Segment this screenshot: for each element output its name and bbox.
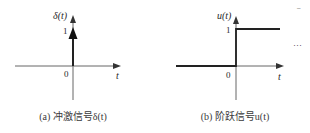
x-axis-label: t [278, 71, 281, 82]
level-label: 1 [63, 26, 68, 36]
y-axis-arrow-icon [233, 16, 239, 24]
panel-step: u(t) 1 0 t ··· (b) 阶跃信号u(t) [176, 10, 302, 123]
origin-label: 0 [64, 69, 69, 79]
signal-diagram: δ(t) 1 0 t (a) 冲激信号δ(t) u(t) 1 0 t ··· (… [0, 0, 310, 133]
continuation-ellipsis: ··· [293, 40, 302, 50]
caption-a: (a) 冲激信号δ(t) [39, 110, 107, 123]
level-label: 1 [226, 25, 231, 35]
x-axis-arrow-icon [113, 63, 121, 69]
panel-impulse: δ(t) 1 0 t (a) 冲激信号δ(t) [15, 10, 121, 123]
x-axis-arrow-icon [276, 63, 284, 69]
corner-mark: – [296, 4, 301, 12]
y-axis-label: u(t) [217, 10, 232, 22]
caption-b: (b) 阶跃信号u(t) [201, 110, 270, 123]
origin-label: 0 [226, 70, 231, 80]
x-axis-label: t [116, 70, 119, 81]
impulse-arrow-icon [69, 27, 78, 39]
y-axis-arrow-icon [70, 15, 76, 23]
y-axis-label: δ(t) [53, 10, 68, 22]
